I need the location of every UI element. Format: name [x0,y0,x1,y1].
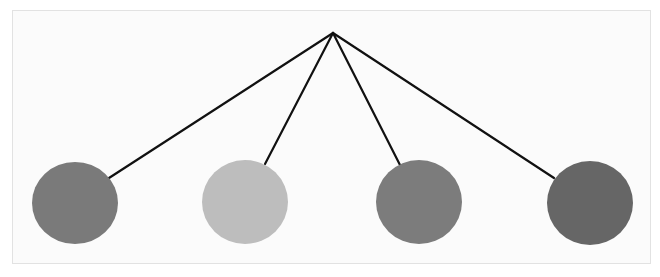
edge-3 [333,33,400,165]
edges-group [109,33,554,178]
edge-4 [333,33,554,178]
child-node-4 [547,161,633,245]
root-node [332,32,334,34]
edge-2 [265,33,333,164]
tree-diagram [0,0,660,277]
child-node-1 [32,162,118,244]
child-node-2 [202,160,288,244]
edge-1 [109,33,333,178]
diagram-canvas [0,0,660,277]
child-node-3 [376,160,462,244]
nodes-group [32,160,633,245]
